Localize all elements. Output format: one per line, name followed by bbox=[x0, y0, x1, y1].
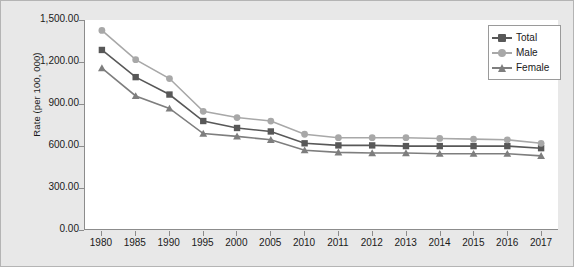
x-axis-tick-label: 2016 bbox=[496, 237, 518, 248]
legend-marker-circle-icon bbox=[492, 46, 512, 59]
x-axis-tick-mark bbox=[304, 231, 305, 236]
chart-legend: TotalMaleFemale bbox=[488, 25, 561, 80]
data-point bbox=[403, 134, 410, 141]
legend-label: Total bbox=[512, 32, 537, 43]
y-axis-tick-labels: 1,500.001,200.00900.00600.00300.000.00 bbox=[5, 20, 79, 230]
legend-symbol bbox=[498, 64, 506, 72]
data-point bbox=[267, 118, 274, 125]
data-point bbox=[166, 75, 173, 82]
y-axis-tick-mark bbox=[79, 20, 84, 21]
y-axis-tick-mark bbox=[79, 146, 84, 147]
data-point bbox=[301, 140, 307, 146]
y-axis-tick-mark bbox=[79, 62, 84, 63]
data-point bbox=[234, 125, 240, 131]
y-axis-tick-mark bbox=[79, 104, 84, 105]
data-point bbox=[403, 143, 409, 149]
x-axis-tick-label: 2014 bbox=[428, 237, 450, 248]
x-axis-tick-label: 1995 bbox=[191, 237, 213, 248]
x-axis-tick-mark bbox=[135, 231, 136, 236]
legend-item-male[interactable]: Male bbox=[492, 45, 556, 60]
data-point bbox=[268, 128, 274, 134]
legend-item-female[interactable]: Female bbox=[492, 60, 556, 75]
data-point bbox=[504, 136, 511, 143]
data-point bbox=[98, 64, 106, 71]
x-axis-tick-mark bbox=[101, 231, 102, 236]
x-axis-tick-mark bbox=[507, 231, 508, 236]
x-axis-tick-label: 2000 bbox=[225, 237, 247, 248]
y-axis-tick-mark bbox=[79, 230, 84, 231]
data-point bbox=[335, 134, 342, 141]
x-axis-tick-mark bbox=[169, 231, 170, 236]
x-axis-tick-label: 2015 bbox=[462, 237, 484, 248]
data-point bbox=[335, 142, 341, 148]
x-axis-tick-mark bbox=[338, 231, 339, 236]
x-axis-tick-mark bbox=[406, 231, 407, 236]
legend-symbol bbox=[498, 49, 506, 57]
y-axis-tick-mark bbox=[79, 188, 84, 189]
y-axis-tick-label: 1,500.00 bbox=[9, 13, 79, 24]
data-point bbox=[132, 74, 138, 80]
data-point bbox=[234, 114, 241, 121]
x-axis-tick-labels: 1980198519901995200020052010201120122013… bbox=[84, 237, 558, 257]
y-axis-tick-label: 0.00 bbox=[9, 223, 79, 234]
x-axis-tick-label: 2005 bbox=[259, 237, 281, 248]
legend-label: Male bbox=[512, 47, 538, 58]
data-point bbox=[166, 91, 172, 97]
data-point bbox=[369, 142, 375, 148]
x-axis-tick-mark bbox=[270, 231, 271, 236]
x-axis-tick-label: 2012 bbox=[361, 237, 383, 248]
plot-area bbox=[84, 20, 558, 230]
x-axis-tick-mark bbox=[541, 231, 542, 236]
data-point bbox=[538, 140, 545, 147]
data-point bbox=[200, 108, 207, 115]
x-axis-tick-label: 2017 bbox=[530, 237, 552, 248]
legend-marker-square-icon bbox=[492, 31, 512, 44]
x-axis-tick-mark bbox=[203, 231, 204, 236]
y-axis-tick-label: 900.00 bbox=[9, 97, 79, 108]
y-axis-tick-label: 300.00 bbox=[9, 181, 79, 192]
y-axis-tick-label: 1,200.00 bbox=[9, 55, 79, 66]
x-axis-tick-label: 2011 bbox=[327, 237, 349, 248]
x-axis-tick-label: 1990 bbox=[158, 237, 180, 248]
x-axis-tick-label: 1980 bbox=[90, 237, 112, 248]
x-axis-tick-mark bbox=[473, 231, 474, 236]
x-axis-tick-mark bbox=[372, 231, 373, 236]
data-point bbox=[301, 131, 308, 138]
data-point bbox=[99, 47, 105, 53]
data-point bbox=[436, 135, 443, 142]
legend-label: Female bbox=[512, 62, 549, 73]
x-axis-tick-label: 2013 bbox=[395, 237, 417, 248]
series-line bbox=[102, 50, 541, 148]
series-male bbox=[99, 27, 545, 147]
x-axis-tick-mark bbox=[440, 231, 441, 236]
x-axis-tick-label: 1985 bbox=[124, 237, 146, 248]
data-point bbox=[99, 27, 106, 34]
data-point bbox=[470, 143, 476, 149]
series-line bbox=[102, 30, 541, 143]
y-axis-tick-label: 600.00 bbox=[9, 139, 79, 150]
data-point bbox=[504, 143, 510, 149]
x-axis-tick-label: 2010 bbox=[293, 237, 315, 248]
legend-item-total[interactable]: Total bbox=[492, 30, 556, 45]
data-point bbox=[369, 134, 376, 141]
data-point bbox=[470, 136, 477, 143]
chart-figure: Rate (per 100, 000) 1,500.001,200.00900.… bbox=[0, 0, 574, 267]
data-point bbox=[132, 56, 139, 63]
legend-marker-triangle-icon bbox=[492, 61, 512, 74]
data-point bbox=[200, 118, 206, 124]
legend-symbol bbox=[498, 34, 506, 42]
data-point bbox=[437, 143, 443, 149]
x-axis-tick-mark bbox=[236, 231, 237, 236]
